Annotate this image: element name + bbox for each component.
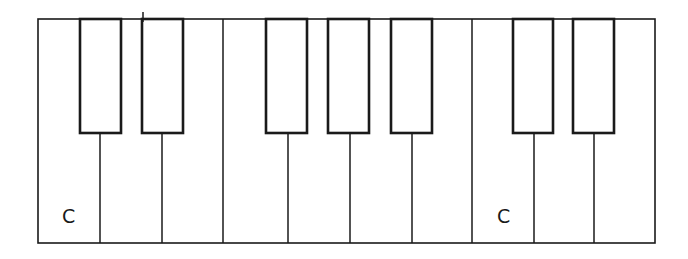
black-key xyxy=(328,19,369,133)
black-key xyxy=(513,19,553,133)
key-label-c-2: C xyxy=(497,205,510,227)
black-key xyxy=(80,19,121,133)
black-key xyxy=(573,19,614,133)
key-label-c-1: C xyxy=(62,205,75,227)
piano-keyboard xyxy=(0,0,688,259)
black-key xyxy=(142,19,183,133)
black-key xyxy=(391,19,432,133)
black-key xyxy=(266,19,307,133)
